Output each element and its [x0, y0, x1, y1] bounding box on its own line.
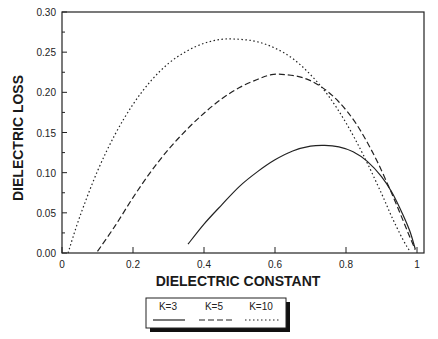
y-tick-label: 0.00: [37, 248, 57, 259]
x-tick-label: 1: [414, 259, 420, 270]
y-tick-label: 0.10: [37, 168, 57, 179]
x-tick-label: 0.8: [339, 259, 353, 270]
series-line-k3: [188, 145, 415, 249]
y-tick-label: 0.30: [37, 7, 57, 18]
dielectric-loss-chart: 00.20.40.60.81 0.000.050.100.150.200.250…: [0, 0, 438, 339]
x-tick-label: 0.2: [126, 259, 140, 270]
y-axis-title: DIELECTRIC LOSS: [10, 75, 26, 201]
legend: K=3 K=5 K=10: [146, 298, 290, 332]
legend-label-k5: K=5: [205, 301, 224, 312]
legend-label-k3: K=3: [159, 301, 178, 312]
series-lines: [68, 39, 415, 253]
y-tick-label: 0.05: [37, 208, 57, 219]
y-tick-label: 0.20: [37, 87, 57, 98]
x-axis-title: DIELECTRIC CONSTANT: [156, 273, 321, 289]
y-tick-label: 0.25: [37, 47, 57, 58]
legend-label-k10: K=10: [249, 301, 273, 312]
series-line-k10: [68, 39, 410, 253]
y-tick-label: 0.15: [37, 128, 57, 139]
x-tick-label: 0.6: [268, 259, 282, 270]
plot-frame: [62, 12, 424, 253]
x-axis-ticks: 00.20.40.60.81: [59, 247, 420, 270]
x-tick-label: 0: [59, 259, 65, 270]
x-tick-label: 0.4: [197, 259, 211, 270]
